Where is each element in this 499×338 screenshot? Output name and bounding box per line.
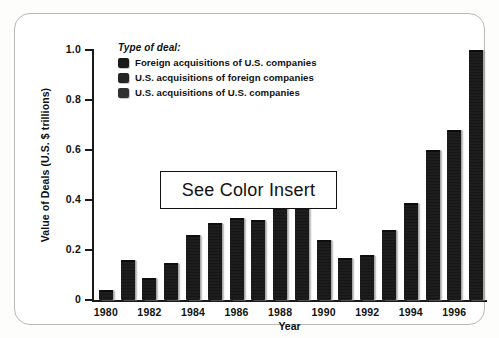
bar-1996 — [447, 130, 461, 300]
legend-row-2: U.S. acquisitions of foreign companies — [118, 72, 358, 83]
x-tick-label-1996: 1996 — [431, 306, 477, 318]
x-axis-line — [92, 300, 487, 302]
x-tick-label-1994: 1994 — [388, 306, 434, 318]
y-tick-label: 0.4 — [43, 194, 81, 205]
legend-swatch-us-acq-foreign — [118, 73, 129, 83]
legend-label-3: U.S. acquisitions of U.S. companies — [135, 87, 300, 98]
x-tick-label-1984: 1984 — [170, 306, 216, 318]
legend-swatch-foreign-acq-us — [118, 58, 129, 68]
bar-1990 — [317, 240, 331, 300]
y-tick-label: 0.2 — [43, 244, 81, 255]
scanned-page-background: Value of Deals (U.S. $ trillions) 00.20.… — [0, 0, 499, 338]
y-tick-mark — [85, 199, 93, 201]
x-tick-label-1982: 1982 — [126, 306, 172, 318]
y-tick-mark — [85, 49, 93, 51]
bar-1993 — [382, 230, 396, 300]
bar-1981 — [121, 260, 135, 300]
y-tick-label: 0.6 — [43, 144, 81, 155]
bar-1991 — [338, 258, 352, 301]
legend-label-2: U.S. acquisitions of foreign companies — [135, 72, 314, 83]
legend-row-1: Foreign acquisitions of U.S. companies — [118, 57, 358, 68]
bar-1984 — [186, 235, 200, 300]
bar-1995 — [426, 150, 440, 300]
bar-1986 — [230, 218, 244, 301]
figure-frame: Value of Deals (U.S. $ trillions) 00.20.… — [14, 13, 485, 325]
y-tick-mark — [85, 249, 93, 251]
x-axis-title: Year — [92, 320, 487, 332]
bar-1997 — [469, 50, 483, 300]
y-tick-label-wrap: 0 — [15, 294, 81, 306]
bar-1988 — [273, 205, 287, 300]
legend-row-3: U.S. acquisitions of U.S. companies — [118, 87, 358, 98]
y-tick-label: 0 — [43, 294, 81, 305]
x-tick-label-1986: 1986 — [214, 306, 260, 318]
bar-1994 — [404, 203, 418, 301]
bar-1987 — [251, 220, 265, 300]
bar-1992 — [360, 255, 374, 300]
y-tick-mark — [85, 149, 93, 151]
legend: Type of deal: Foreign acquisitions of U.… — [118, 42, 358, 102]
bar-1983 — [164, 263, 178, 301]
y-tick-label-wrap: 0.2 — [15, 244, 81, 256]
y-tick-label-wrap: 1.0 — [15, 44, 81, 56]
legend-swatch-us-acq-us — [118, 88, 129, 98]
legend-label-1: Foreign acquisitions of U.S. companies — [135, 57, 317, 68]
y-tick-label-wrap: 0.6 — [15, 144, 81, 156]
bar-1980 — [99, 290, 113, 300]
y-tick-mark — [85, 99, 93, 101]
y-tick-label: 0.8 — [43, 94, 81, 105]
y-tick-label-wrap: 0.4 — [15, 194, 81, 206]
legend-title: Type of deal: — [118, 42, 358, 53]
x-tick-label-1980: 1980 — [83, 306, 129, 318]
bar-1989 — [295, 205, 309, 300]
bar-1985 — [208, 223, 222, 301]
legend-items: Foreign acquisitions of U.S. companiesU.… — [118, 57, 358, 98]
y-tick-label: 1.0 — [43, 44, 81, 55]
y-tick-label-wrap: 0.8 — [15, 94, 81, 106]
x-tick-label-1990: 1990 — [301, 306, 347, 318]
y-tick-mark — [85, 299, 93, 301]
x-tick-label-1988: 1988 — [257, 306, 303, 318]
x-tick-label-1992: 1992 — [344, 306, 390, 318]
bar-1982 — [142, 278, 156, 301]
see-color-insert-note: See Color Insert — [160, 171, 337, 209]
